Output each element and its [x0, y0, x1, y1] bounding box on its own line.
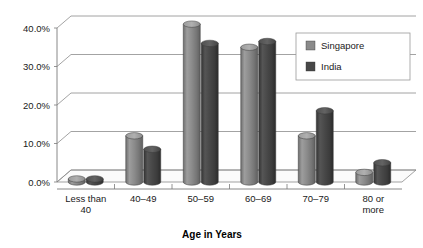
bar-india	[144, 149, 161, 185]
bar-singapore	[183, 24, 200, 185]
bar-singapore	[298, 136, 315, 185]
bar-singapore-top	[68, 176, 85, 182]
bar-singapore-top	[126, 133, 143, 139]
legend-label: India	[321, 61, 342, 72]
bar-india-top	[316, 108, 333, 114]
bar-india-top	[374, 160, 391, 166]
chart-legend: SingaporeIndia	[296, 33, 410, 80]
x-tick-label: 40–49	[130, 193, 156, 204]
y-tick-label: 0.0%	[28, 177, 50, 188]
bar-india-top	[86, 176, 103, 182]
legend-swatch	[306, 41, 315, 50]
y-tick-label: 30.0%	[23, 61, 50, 72]
bar-singapore	[126, 136, 143, 185]
bar-india	[316, 111, 333, 185]
x-tick-label: Less than	[65, 193, 106, 204]
y-axis-labels: 0.0%10.0%20.0%30.0%40.0%	[23, 23, 50, 188]
chart-canvas: Less than4040–4950–5960–6970–7980 ormore…	[0, 0, 423, 248]
x-tick-label-line2: 40	[80, 204, 91, 215]
bar-chart: Less than4040–4950–5960–6970–7980 ormore…	[0, 0, 423, 248]
bar-india-top	[201, 40, 218, 46]
bar-india	[259, 41, 276, 185]
y-tick-label: 20.0%	[23, 100, 50, 111]
bar-india-top	[259, 38, 276, 44]
bar-india	[201, 43, 218, 185]
x-axis-labels: Less than4040–4950–5960–6970–7980 ormore	[65, 193, 384, 215]
gridline	[57, 93, 416, 105]
legend-label: Singapore	[321, 40, 364, 51]
x-tick-label: 50–59	[188, 193, 214, 204]
legend-swatch	[306, 62, 315, 71]
bar-singapore-top	[241, 44, 258, 50]
gridline	[57, 132, 416, 144]
x-tick-label: 60–69	[245, 193, 271, 204]
x-tick-label: 70–79	[303, 193, 329, 204]
bar-singapore-top	[183, 21, 200, 27]
gridline	[57, 16, 416, 28]
x-tick-label-line2: more	[362, 204, 384, 215]
bar-india-top	[144, 146, 161, 152]
y-tick-label: 10.0%	[23, 138, 50, 149]
x-tick-label: 80 or	[362, 193, 384, 204]
y-tick-label: 40.0%	[23, 23, 50, 34]
x-axis-title: Age in Years	[182, 229, 242, 240]
bar-singapore-top	[356, 169, 373, 175]
bar-singapore	[241, 47, 258, 185]
bar-singapore-top	[298, 133, 315, 139]
